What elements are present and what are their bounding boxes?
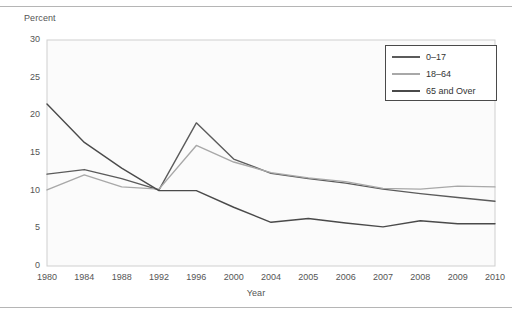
x-tick-1984: 1984	[64, 272, 104, 282]
y-tick-0: 0	[18, 260, 40, 270]
chart-figure: Percent Year 051015202530 19801984198819…	[0, 0, 512, 314]
x-tick-2006: 2006	[326, 272, 366, 282]
y-tick-20: 20	[18, 109, 40, 119]
y-tick-25: 25	[18, 72, 40, 82]
legend-item-0-17: 0–17	[392, 49, 446, 65]
x-tick-1996: 1996	[176, 272, 216, 282]
y-axis-title: Percent	[24, 13, 56, 23]
x-tick-1980: 1980	[27, 272, 67, 282]
y-tick-15: 15	[18, 147, 40, 157]
legend-swatch-18-64	[392, 73, 420, 75]
chart-legend: 0–17 18–64 65 and Over	[385, 45, 497, 101]
legend-swatch-0-17	[392, 56, 420, 58]
y-tick-10: 10	[18, 185, 40, 195]
x-tick-1988: 1988	[102, 272, 142, 282]
x-tick-2010: 2010	[475, 272, 512, 282]
x-tick-2008: 2008	[400, 272, 440, 282]
x-tick-1992: 1992	[139, 272, 179, 282]
x-axis-title: Year	[0, 288, 512, 298]
x-tick-2005: 2005	[288, 272, 328, 282]
legend-swatch-65-and-over	[392, 90, 420, 92]
legend-item-18-64: 18–64	[392, 66, 451, 82]
legend-item-65-and-over: 65 and Over	[392, 83, 476, 99]
x-tick-2000: 2000	[214, 272, 254, 282]
y-tick-30: 30	[18, 34, 40, 44]
legend-label-0-17: 0–17	[426, 52, 446, 62]
plot-area: Percent Year 051015202530 19801984198819…	[0, 0, 512, 314]
y-tick-5: 5	[18, 222, 40, 232]
x-tick-2009: 2009	[438, 272, 478, 282]
x-tick-2007: 2007	[363, 272, 403, 282]
legend-label-18-64: 18–64	[426, 69, 451, 79]
legend-label-65-and-over: 65 and Over	[426, 86, 476, 96]
x-tick-2004: 2004	[251, 272, 291, 282]
